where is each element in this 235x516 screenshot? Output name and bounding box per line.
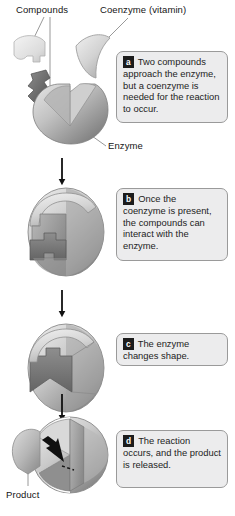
label-compounds: Compounds <box>16 4 68 15</box>
step-badge-d: d <box>123 435 134 447</box>
step-callout-b: bOnce the coenzyme is present, the compo… <box>116 188 228 261</box>
step-callout-c: cThe enzyme changes shape. <box>116 333 228 366</box>
label-enzyme: Enzyme <box>108 140 143 151</box>
figure-canvas: Compounds Coenzyme (vitamin) Enzyme Prod… <box>0 0 235 516</box>
panel-b-art <box>28 188 104 276</box>
panel-c-art <box>28 324 104 412</box>
step-callout-d: dThe reaction occurs, and the product is… <box>116 430 228 488</box>
panel-d-art <box>12 417 108 493</box>
leader-lines <box>28 17 128 486</box>
step-text-a: Two compounds approach the enzyme, but a… <box>123 56 219 114</box>
label-product: Product <box>6 489 39 500</box>
panel-a-art <box>14 35 110 144</box>
step-badge-c: c <box>123 338 134 350</box>
step-callout-a: aTwo compounds approach the enzyme, but … <box>116 51 228 123</box>
step-text-b: Once the coenzyme is present, the compou… <box>123 193 212 251</box>
step-badge-b: b <box>123 193 134 205</box>
step-text-d: The reaction occurs, and the product is … <box>123 435 221 470</box>
label-coenzyme: Coenzyme (vitamin) <box>100 4 186 15</box>
step-badge-a: a <box>123 56 134 68</box>
